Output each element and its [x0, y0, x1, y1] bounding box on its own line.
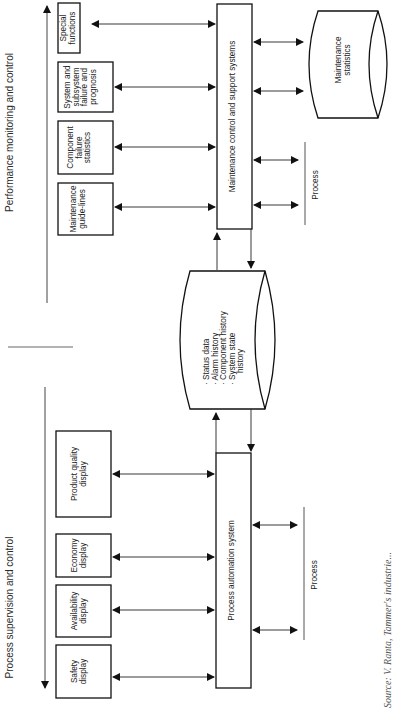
label-system-subsystem-failure: System andsubsystemfailure andprognosis	[64, 62, 110, 112]
label-availability-display: Availabilitydisplay	[71, 585, 95, 637]
maintenance-links	[92, 24, 303, 207]
label-maintenance-control: Maintenance control and support systems	[229, 4, 238, 229]
diagram-canvas	[0, 0, 401, 708]
performance-monitoring-heading: Performance monitoring and control	[5, 67, 16, 212]
label-process-top: Process	[312, 160, 321, 210]
source-caption: Source: V. Ranta, Tammer's industrie...	[383, 238, 394, 708]
automation-links	[113, 474, 297, 677]
label-maintenance-guidelines: Maintenanceguide-lines	[70, 183, 94, 235]
label-process-automation: Process automation system	[228, 453, 237, 688]
label-shared-history: · Status data· Alarm history· Component …	[203, 295, 253, 385]
db-links-bottom	[216, 409, 251, 453]
label-economy-display: Economydisplay	[71, 534, 95, 577]
db-links-top	[217, 229, 251, 270]
process-supervision-heading: Process supervision and control	[5, 525, 16, 690]
label-special-functions: Specialfunctions	[60, 3, 80, 53]
label-process-bottom: Process	[311, 550, 320, 600]
label-product-quality-display: Product qualitydisplay	[71, 431, 95, 517]
label-component-failure-statistics: Componentfailurestatistics	[67, 121, 103, 174]
label-maintenance-statistics: Maintenancestatistics	[335, 30, 357, 90]
label-safety-display: Safetydisplay	[71, 645, 95, 698]
